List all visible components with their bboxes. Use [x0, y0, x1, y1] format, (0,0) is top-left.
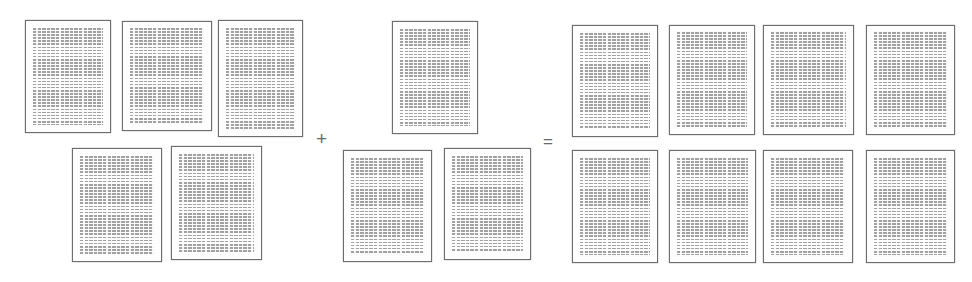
- document-text-lines: [874, 158, 947, 255]
- document-text-lines: [874, 32, 947, 127]
- plus-operator-icon: +: [316, 129, 327, 148]
- document-paper: [573, 151, 657, 262]
- document-page: [72, 148, 162, 262]
- document-equation-figure: +=: [0, 0, 972, 282]
- document-text-lines: [771, 32, 846, 127]
- document-page: [122, 21, 212, 131]
- document-text-lines: [677, 158, 748, 255]
- equals-operator-icon: =: [543, 133, 553, 150]
- document-text-lines: [226, 28, 296, 129]
- document-paper: [867, 26, 954, 134]
- document-text-lines: [130, 28, 204, 123]
- document-text-lines: [452, 156, 523, 252]
- document-page: [669, 25, 755, 135]
- document-text-lines: [351, 158, 424, 254]
- document-page: [866, 25, 955, 135]
- document-text-lines: [771, 158, 845, 255]
- document-page: [669, 150, 756, 263]
- document-paper: [764, 151, 852, 262]
- document-paper: [172, 147, 261, 259]
- document-page: [25, 20, 111, 133]
- document-page: [392, 21, 478, 134]
- document-page: [444, 148, 531, 260]
- document-text-lines: [580, 33, 651, 129]
- document-paper: [393, 22, 477, 133]
- document-text-lines: [80, 156, 154, 254]
- document-page: [343, 150, 432, 262]
- document-paper: [670, 26, 754, 134]
- document-paper: [764, 26, 853, 134]
- document-page: [218, 20, 303, 137]
- document-page: [572, 150, 658, 263]
- document-page: [763, 150, 853, 263]
- document-paper: [219, 21, 302, 136]
- document-text-lines: [580, 158, 651, 255]
- document-paper: [73, 149, 161, 261]
- document-paper: [344, 151, 431, 261]
- document-paper: [867, 151, 954, 262]
- document-page: [763, 25, 854, 135]
- document-paper: [123, 22, 211, 130]
- document-paper: [670, 151, 755, 262]
- document-text-lines: [179, 154, 254, 252]
- document-paper: [26, 21, 110, 132]
- document-page: [572, 25, 658, 137]
- document-page: [866, 150, 955, 263]
- document-text-lines: [677, 32, 748, 127]
- document-paper: [445, 149, 530, 259]
- document-page: [171, 146, 262, 260]
- document-text-lines: [400, 29, 471, 126]
- document-paper: [573, 26, 657, 136]
- document-text-lines: [33, 28, 104, 125]
